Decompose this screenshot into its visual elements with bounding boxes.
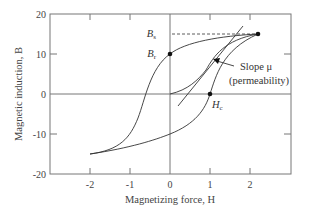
slope-label: Slope μ xyxy=(240,61,273,72)
x-tick-label: 0 xyxy=(168,179,173,190)
x-tick-label: 2 xyxy=(248,179,253,190)
x-tick-label: -2 xyxy=(86,179,94,190)
x-tick-label: -1 xyxy=(126,179,134,190)
br-marker xyxy=(168,52,173,57)
x-axis-title: Magnetizing force, H xyxy=(125,194,216,205)
y-tick-label: 20 xyxy=(36,9,46,20)
hc-marker xyxy=(208,92,213,97)
y-tick-label: 0 xyxy=(41,89,46,100)
br-label: Br xyxy=(147,48,156,61)
y-tick-label: 10 xyxy=(36,49,46,60)
y-tick-label: -20 xyxy=(33,169,46,180)
x-tick-label: 1 xyxy=(208,179,213,190)
saturation-marker xyxy=(256,32,261,37)
hysteresis-chart: -2 -1 0 1 2 20 10 0 -10 -20 Magnetizing … xyxy=(0,0,309,211)
bs-label: Bs xyxy=(147,28,156,41)
permeability-label: (permeability) xyxy=(229,75,290,87)
slope-arrow-line xyxy=(217,61,234,66)
y-tick-label: -10 xyxy=(33,129,46,140)
hc-label: Hc xyxy=(211,99,223,112)
y-axis-title: Magnetic induction, B xyxy=(13,47,24,141)
